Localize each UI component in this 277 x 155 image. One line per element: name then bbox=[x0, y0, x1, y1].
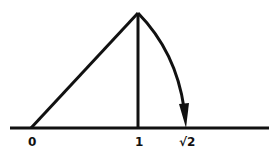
label-sqrt2: √2 bbox=[179, 135, 195, 149]
label-one: 1 bbox=[135, 135, 143, 149]
hypotenuse bbox=[31, 13, 138, 128]
arrowhead-icon bbox=[179, 103, 189, 128]
label-zero: 0 bbox=[28, 135, 36, 149]
sqrt2-number-line-diagram: 0 1 √2 bbox=[0, 0, 277, 155]
arc-swing bbox=[138, 13, 184, 108]
